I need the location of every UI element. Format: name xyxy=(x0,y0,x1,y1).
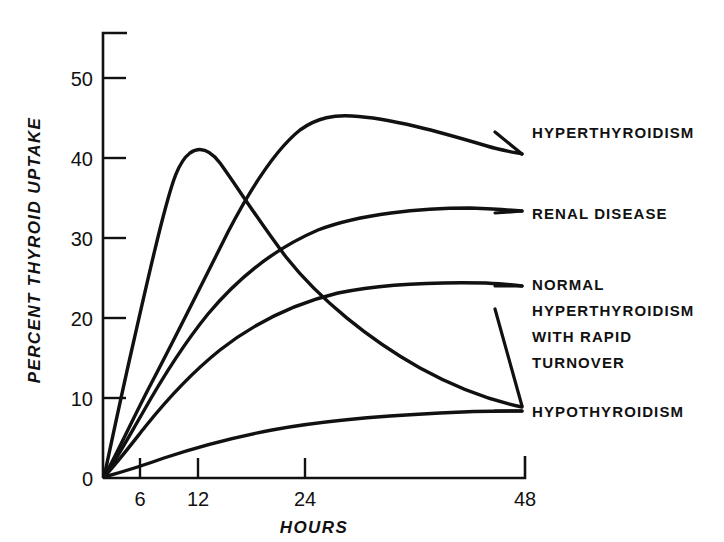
y-tick-label-40: 40 xyxy=(71,148,93,170)
curve-hyperthyroidism-rapid-turnover xyxy=(104,150,522,477)
legend-label-rapid-turnover-line3: TURNOVER xyxy=(532,354,625,371)
x-tick-label-24: 24 xyxy=(294,488,316,510)
y-tick-label-30: 30 xyxy=(71,228,93,250)
y-tick-label-20: 20 xyxy=(71,308,93,330)
x-tick-label-6: 6 xyxy=(134,488,145,510)
x-axis-line xyxy=(103,456,525,478)
curve-renal-disease xyxy=(104,208,522,477)
legend-label-hyperthyroidism: HYPERTHYROIDISM xyxy=(532,124,694,141)
y-axis-line xyxy=(103,33,127,478)
thyroid-uptake-chart: 50 40 30 20 10 0 6 12 24 48 PERCENT THYR… xyxy=(0,0,724,542)
legend-label-hypothyroidism: HYPOTHYROIDISM xyxy=(532,403,684,420)
legend-leader-lines xyxy=(495,132,522,411)
y-axis-title: PERCENT THYROID UPTAKE xyxy=(25,117,44,384)
curve-normal xyxy=(104,283,522,477)
chart-svg: 50 40 30 20 10 0 6 12 24 48 PERCENT THYR… xyxy=(0,0,724,542)
x-tick-labels: 6 12 24 48 xyxy=(134,488,536,510)
leader-rapid-turnover xyxy=(495,309,522,406)
y-tick-label-0: 0 xyxy=(82,468,93,490)
legend: HYPERTHYROIDISM RENAL DISEASE NORMAL HYP… xyxy=(532,124,694,420)
x-axis-title: HOURS xyxy=(280,518,348,537)
y-tick-label-50: 50 xyxy=(71,68,93,90)
curve-hypothyroidism xyxy=(104,411,522,477)
leader-renal-disease xyxy=(495,211,522,213)
x-tick-label-12: 12 xyxy=(187,488,209,510)
curves xyxy=(104,116,522,477)
legend-label-renal-disease: RENAL DISEASE xyxy=(532,205,668,222)
x-tick-label-48: 48 xyxy=(514,488,536,510)
legend-label-rapid-turnover-line1: HYPERTHYROIDISM xyxy=(532,302,694,319)
y-tick-label-10: 10 xyxy=(71,388,93,410)
y-tick-labels: 50 40 30 20 10 0 xyxy=(71,68,93,490)
legend-label-normal: NORMAL xyxy=(532,276,604,293)
legend-label-rapid-turnover-line2: WITH RAPID xyxy=(532,328,632,345)
